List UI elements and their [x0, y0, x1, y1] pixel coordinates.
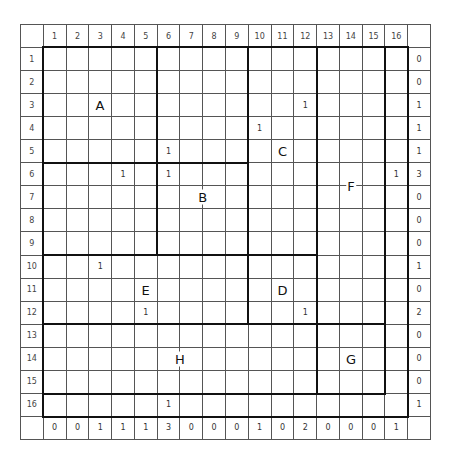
grid-cell[interactable]: [340, 302, 363, 325]
grid-cell[interactable]: [112, 94, 135, 117]
grid-cell[interactable]: [180, 348, 203, 371]
grid-cell[interactable]: [385, 140, 408, 163]
grid-cell[interactable]: [385, 279, 408, 302]
grid-cell[interactable]: [180, 302, 203, 325]
grid-cell[interactable]: [294, 140, 317, 163]
grid-cell[interactable]: [294, 279, 317, 302]
grid-cell[interactable]: [112, 140, 135, 163]
grid-cell[interactable]: [272, 232, 295, 255]
grid-cell[interactable]: [112, 209, 135, 232]
grid-cell[interactable]: [203, 279, 226, 302]
grid-cell[interactable]: [340, 186, 363, 209]
grid-cell[interactable]: [340, 348, 363, 371]
grid-cell[interactable]: [158, 256, 181, 279]
grid-cell[interactable]: [226, 163, 249, 186]
grid-cell[interactable]: [340, 117, 363, 140]
grid-cell[interactable]: [135, 140, 158, 163]
grid-cell[interactable]: [203, 348, 226, 371]
grid-cell[interactable]: [385, 325, 408, 348]
grid-cell[interactable]: [385, 371, 408, 394]
grid-cell[interactable]: [203, 94, 226, 117]
grid-cell[interactable]: [317, 186, 340, 209]
grid-cell[interactable]: [249, 163, 272, 186]
grid-cell[interactable]: [89, 232, 112, 255]
grid-cell[interactable]: [294, 71, 317, 94]
grid-cell[interactable]: [203, 371, 226, 394]
grid-cell[interactable]: [135, 209, 158, 232]
grid-cell[interactable]: [385, 256, 408, 279]
grid-cell[interactable]: [158, 71, 181, 94]
grid-cell[interactable]: [158, 279, 181, 302]
grid-cell[interactable]: [385, 94, 408, 117]
grid-cell[interactable]: [340, 140, 363, 163]
grid-cell[interactable]: [67, 279, 90, 302]
grid-cell[interactable]: [317, 302, 340, 325]
grid-cell[interactable]: [226, 371, 249, 394]
grid-cell[interactable]: [135, 186, 158, 209]
grid-cell[interactable]: [249, 48, 272, 71]
grid-cell[interactable]: [67, 371, 90, 394]
grid-cell[interactable]: [158, 186, 181, 209]
grid-cell[interactable]: [340, 71, 363, 94]
grid-cell[interactable]: [67, 256, 90, 279]
grid-cell[interactable]: [226, 209, 249, 232]
grid-cell[interactable]: [44, 394, 67, 417]
grid-cell[interactable]: [363, 256, 386, 279]
grid-cell[interactable]: [363, 71, 386, 94]
grid-cell[interactable]: [317, 140, 340, 163]
grid-cell[interactable]: [294, 117, 317, 140]
grid-cell[interactable]: [249, 94, 272, 117]
grid-cell[interactable]: 1: [135, 302, 158, 325]
grid-cell[interactable]: [44, 71, 67, 94]
grid-cell[interactable]: [294, 348, 317, 371]
grid-cell[interactable]: [135, 117, 158, 140]
grid-cell[interactable]: [317, 94, 340, 117]
grid-cell[interactable]: [249, 71, 272, 94]
grid-cell[interactable]: [272, 94, 295, 117]
grid-cell[interactable]: [44, 348, 67, 371]
grid-cell[interactable]: [203, 256, 226, 279]
grid-cell[interactable]: [180, 140, 203, 163]
grid-cell[interactable]: [249, 348, 272, 371]
grid-cell[interactable]: [317, 71, 340, 94]
grid-cell[interactable]: [226, 117, 249, 140]
grid-cell[interactable]: [135, 94, 158, 117]
grid-cell[interactable]: [180, 117, 203, 140]
grid-cell[interactable]: [294, 48, 317, 71]
grid-cell[interactable]: [249, 371, 272, 394]
grid-cell[interactable]: [226, 348, 249, 371]
grid-cell[interactable]: [340, 371, 363, 394]
grid-cell[interactable]: [135, 279, 158, 302]
grid-cell[interactable]: [340, 94, 363, 117]
grid-cell[interactable]: [340, 209, 363, 232]
grid-cell[interactable]: [135, 371, 158, 394]
grid-cell[interactable]: [158, 371, 181, 394]
grid-cell[interactable]: [112, 256, 135, 279]
grid-cell[interactable]: [135, 71, 158, 94]
grid-cell[interactable]: [363, 325, 386, 348]
grid-cell[interactable]: [67, 117, 90, 140]
grid-cell[interactable]: [363, 348, 386, 371]
grid-cell[interactable]: [249, 209, 272, 232]
grid-cell[interactable]: 1: [385, 163, 408, 186]
grid-cell[interactable]: [44, 279, 67, 302]
grid-cell[interactable]: [226, 186, 249, 209]
grid-cell[interactable]: 1: [112, 163, 135, 186]
grid-cell[interactable]: [340, 232, 363, 255]
grid-cell[interactable]: [294, 163, 317, 186]
grid-cell[interactable]: [385, 209, 408, 232]
grid-cell[interactable]: [112, 186, 135, 209]
grid-cell[interactable]: [112, 232, 135, 255]
grid-cell[interactable]: [135, 348, 158, 371]
grid-cell[interactable]: [317, 371, 340, 394]
grid-cell[interactable]: [385, 348, 408, 371]
grid-cell[interactable]: [67, 163, 90, 186]
grid-cell[interactable]: [226, 48, 249, 71]
grid-cell[interactable]: [363, 371, 386, 394]
grid-cell[interactable]: [89, 140, 112, 163]
grid-cell[interactable]: [89, 279, 112, 302]
grid-cell[interactable]: [112, 394, 135, 417]
grid-cell[interactable]: [272, 302, 295, 325]
grid-cell[interactable]: [317, 279, 340, 302]
grid-cell[interactable]: [89, 325, 112, 348]
